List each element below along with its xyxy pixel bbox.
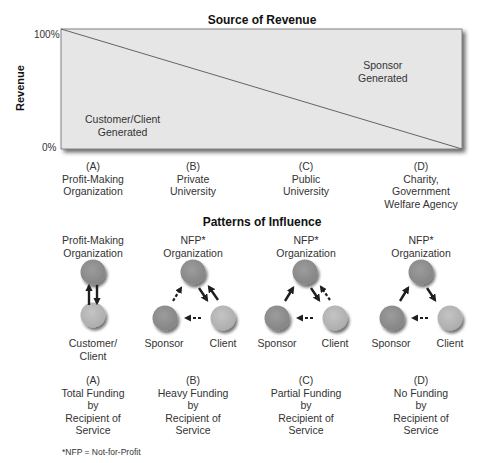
customer-generated-region-label: Customer/Client Generated xyxy=(85,113,160,138)
pattern-a-graphic xyxy=(81,260,106,328)
pattern-c-graphic xyxy=(265,260,348,331)
y-tick-100: 100% xyxy=(34,29,60,40)
pattern-d-sponsor-label: Sponsor xyxy=(371,337,410,350)
org-to-client-arrow-icon xyxy=(311,288,319,300)
client-circle xyxy=(438,306,463,331)
pattern-c-sponsor-label: Sponsor xyxy=(257,337,296,350)
pattern-b-funding-label: (B) Heavy Funding by Recipient of Servic… xyxy=(158,374,229,437)
category-c-label: (C) Public University xyxy=(283,160,329,198)
category-d-label: (D) Charity, Government Welfare Agency xyxy=(384,160,457,210)
pattern-b-org-label: NFP* Organization xyxy=(163,234,223,259)
category-b-label: (B) Private University xyxy=(170,160,216,198)
influence-title: Patterns of Influence xyxy=(203,215,322,229)
sponsor-circle xyxy=(380,306,405,331)
pattern-b-graphic xyxy=(153,260,236,331)
client-to-org-dashed-arrow-icon xyxy=(321,287,330,300)
org-circle xyxy=(181,260,206,285)
category-a-label: (A) Profit-Making Organization xyxy=(62,160,124,198)
sponsor-circle xyxy=(265,306,290,331)
client-circle xyxy=(81,303,106,328)
pattern-a-role-label: Customer/ Client xyxy=(69,337,117,362)
pattern-b-client-label: Client xyxy=(210,337,237,350)
y-tick-0: 0% xyxy=(42,142,56,153)
pattern-c-org-label: NFP* Organization xyxy=(276,234,336,259)
pattern-d-client-label: Client xyxy=(437,337,464,350)
sponsor-to-org-dashed-arrow-icon xyxy=(173,288,181,301)
pattern-b-sponsor-label: Sponsor xyxy=(144,337,183,350)
nfp-footnote: *NFP = Not-for-Profit xyxy=(62,447,141,457)
pattern-d-org-label: NFP* Organization xyxy=(391,234,451,259)
pattern-d-graphic xyxy=(380,260,463,331)
sponsor-generated-region-label: Sponsor Generated xyxy=(358,59,408,84)
pattern-c-client-label: Client xyxy=(322,337,349,350)
pattern-c-funding-label: (C) Partial Funding by Recipient of Serv… xyxy=(271,374,342,437)
org-circle xyxy=(409,260,434,285)
pattern-a-funding-label: (A) Total Funding by Recipient of Servic… xyxy=(61,374,124,437)
pattern-d-funding-label: (D) No Funding by Recipient of Service xyxy=(393,374,448,437)
client-circle xyxy=(323,306,348,331)
org-circle xyxy=(81,260,106,285)
client-circle xyxy=(211,306,236,331)
y-axis-label: Revenue xyxy=(14,63,26,113)
org-to-client-arrow-icon xyxy=(199,288,207,300)
revenue-chart-title: Source of Revenue xyxy=(208,13,317,27)
org-circle xyxy=(293,260,318,285)
org-to-client-arrow-icon xyxy=(427,288,435,300)
sponsor-to-org-arrow-icon xyxy=(285,288,293,301)
client-to-org-arrow-icon xyxy=(209,287,218,300)
pattern-a-org-label: Profit-Making Organization xyxy=(62,234,124,259)
sponsor-to-org-arrow-icon xyxy=(400,288,408,301)
sponsor-circle xyxy=(153,306,178,331)
